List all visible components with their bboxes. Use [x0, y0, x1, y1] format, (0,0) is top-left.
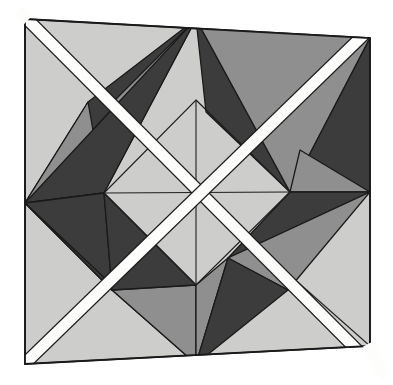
- band-tail-top-left: [18, 10, 28, 20]
- panel-group: [10, 10, 385, 378]
- geometric-composition: [0, 0, 393, 385]
- artwork-canvas: [0, 0, 393, 385]
